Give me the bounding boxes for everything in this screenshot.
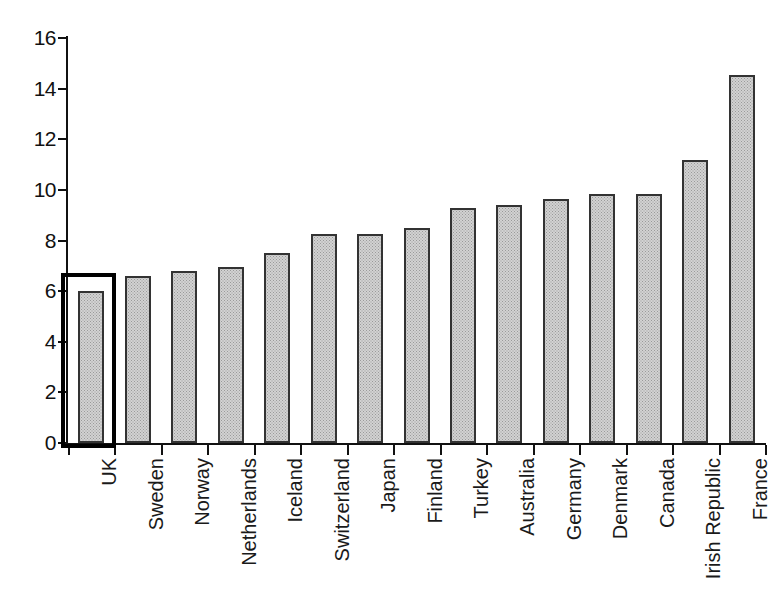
x-axis-tick xyxy=(672,445,674,455)
x-axis-label-text: Canada xyxy=(657,458,677,528)
x-axis-label-australia: Australia xyxy=(517,458,537,536)
bar-chart: 1614121086420 UKSwedenNorwayNetherlandsI… xyxy=(0,0,783,614)
x-axis-label-canada: Canada xyxy=(657,458,677,528)
x-axis-label-turkey: Turkey xyxy=(471,458,491,518)
x-axis-tick xyxy=(161,445,163,455)
x-axis-label-text: Turkey xyxy=(471,458,491,518)
x-axis-label-text: Germany xyxy=(564,458,584,540)
y-axis-tick-label: 16 xyxy=(26,27,56,48)
x-axis-label-text: Sweden xyxy=(146,458,166,530)
bar-switzerland xyxy=(311,234,337,443)
x-axis-tick xyxy=(254,445,256,455)
x-axis-label-norway: Norway xyxy=(192,458,212,526)
x-axis-label-text: Norway xyxy=(192,458,212,526)
y-axis-tick-label: 14 xyxy=(26,78,56,99)
x-axis-label-text: Irish Republic xyxy=(703,458,723,579)
x-axis-tick xyxy=(579,445,581,455)
y-axis-tick-label: 10 xyxy=(26,179,56,200)
x-axis-tick xyxy=(300,445,302,455)
y-axis-tick xyxy=(58,138,67,140)
x-axis-label-germany: Germany xyxy=(564,458,584,540)
x-axis-label-text: Iceland xyxy=(285,458,305,523)
y-axis-tick xyxy=(58,290,67,292)
y-axis-tick-label: 2 xyxy=(26,381,56,402)
x-axis-tick xyxy=(393,445,395,455)
y-axis-tick xyxy=(58,240,67,242)
plot-area xyxy=(68,38,765,443)
bar-canada xyxy=(636,194,662,443)
x-axis-label-finland: Finland xyxy=(425,458,445,524)
bar-norway xyxy=(171,271,197,443)
x-axis-tick xyxy=(114,445,116,455)
x-axis-label-iceland: Iceland xyxy=(285,458,305,523)
bar-irish-republic xyxy=(682,160,708,444)
y-axis-tick xyxy=(58,442,67,444)
y-axis-tick-label: 4 xyxy=(26,331,56,352)
x-axis-label-text: Denmark xyxy=(610,458,630,539)
x-axis-label-text: Finland xyxy=(425,458,445,524)
x-axis-label-japan: Japan xyxy=(378,458,398,513)
x-axis-tick xyxy=(347,445,349,455)
bar-japan xyxy=(357,234,383,443)
x-axis-tick xyxy=(207,445,209,455)
x-axis-label-netherlands: Netherlands xyxy=(239,458,259,566)
x-axis-label-irish-republic: Irish Republic xyxy=(703,458,723,579)
x-axis-tick xyxy=(765,445,767,455)
x-axis-label-france: France xyxy=(750,458,770,520)
bar-sweden xyxy=(125,276,151,443)
x-axis-tick xyxy=(68,445,70,455)
x-axis-label-text: Netherlands xyxy=(239,458,259,566)
bar-iceland xyxy=(264,253,290,443)
x-axis-tick xyxy=(440,445,442,455)
x-axis-label-denmark: Denmark xyxy=(610,458,630,539)
y-axis-tick-label: 12 xyxy=(26,128,56,149)
bar-france xyxy=(729,75,755,443)
x-axis-tick xyxy=(533,445,535,455)
x-axis-label-text: Australia xyxy=(517,458,537,536)
bar-denmark xyxy=(589,194,615,443)
y-axis-tick xyxy=(58,391,67,393)
x-axis-tick xyxy=(626,445,628,455)
x-axis-label-text: Switzerland xyxy=(332,458,352,561)
y-axis-tick xyxy=(58,88,67,90)
y-axis-tick xyxy=(58,189,67,191)
bar-turkey xyxy=(450,208,476,443)
y-axis-tick-label: 8 xyxy=(26,230,56,251)
x-axis-tick xyxy=(486,445,488,455)
y-axis-tick xyxy=(58,341,67,343)
bar-australia xyxy=(496,205,522,443)
x-axis-label-text: UK xyxy=(99,458,119,486)
bar-netherlands xyxy=(218,267,244,443)
bar-germany xyxy=(543,199,569,443)
bar-finland xyxy=(404,228,430,443)
x-axis-line xyxy=(66,443,766,445)
x-axis-label-uk: UK xyxy=(99,458,119,486)
y-axis-tick xyxy=(58,37,67,39)
x-axis-label-text: Japan xyxy=(378,458,398,513)
x-axis-label-sweden: Sweden xyxy=(146,458,166,530)
x-axis-label-text: France xyxy=(750,458,770,520)
x-axis-label-switzerland: Switzerland xyxy=(332,458,352,561)
y-axis-tick-label: 0 xyxy=(26,432,56,453)
x-axis-tick xyxy=(719,445,721,455)
y-axis-tick-label: 6 xyxy=(26,280,56,301)
bar-uk xyxy=(78,291,104,443)
